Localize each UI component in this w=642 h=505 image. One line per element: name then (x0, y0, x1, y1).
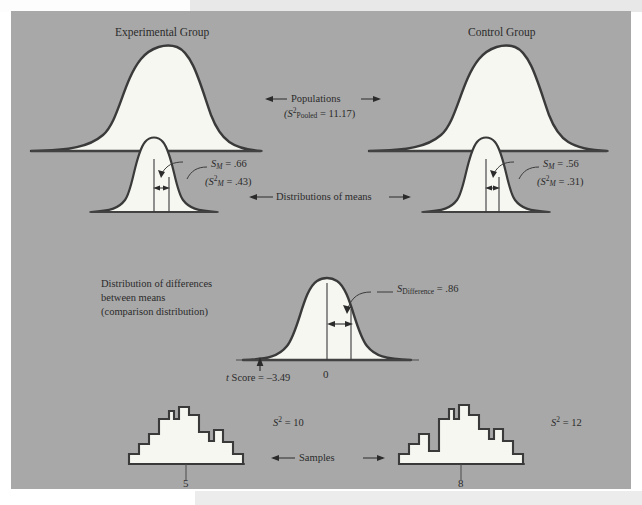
t-score-label: t Score = –3.49 (226, 371, 290, 384)
experimental-sm-leader (187, 167, 207, 179)
experimental-sample-variance-label: S2 = 10 (273, 415, 304, 429)
pooled-variance-label: (S2Pooled = 11.17) (284, 106, 355, 121)
comparison-distribution-caption: Distribution of differences between mean… (101, 277, 212, 319)
control-variance-label: (S2M = .31) (537, 174, 584, 189)
pooled-variance-value: = 11.17) (317, 108, 355, 119)
experimental-sm-label: SM = .66 (211, 157, 247, 171)
control-variance-value: = .31) (556, 176, 584, 187)
control-variance-open: (S (537, 176, 546, 187)
comparison-zero-label: 0 (323, 368, 329, 382)
bottom-white-band (0, 491, 195, 505)
experimental-variance-label: (S2M = .43) (205, 174, 252, 189)
pooled-variance-subscript: Pooled (297, 111, 318, 120)
experimental-population-curve (31, 46, 263, 152)
experimental-group-title: Experimental Group (115, 25, 209, 39)
experimental-sample-mean-label: 5 (183, 477, 189, 489)
control-sample-variance-label: S2 = 12 (551, 415, 582, 429)
control-sm-leader (519, 167, 539, 179)
s-difference-value: = .86 (434, 283, 458, 294)
pooled-variance-open: (S (284, 108, 293, 119)
control-population-curve (369, 46, 609, 152)
s-difference-label: SDifference = .86 (397, 282, 458, 296)
control-sample-variance-value: = 12 (560, 417, 582, 428)
t-score-value: Score = –3.49 (229, 372, 290, 383)
populations-arrow-label: Populations (291, 92, 341, 105)
control-sample-mean-label: 8 (458, 477, 464, 489)
figure-root: Experimental Group Control Group Populat… (0, 0, 642, 505)
experimental-sm-value: = .66 (223, 158, 247, 169)
samples-arrow-label: Samples (299, 451, 335, 464)
control-sm-label: SM = .56 (543, 157, 579, 171)
experimental-sample-histogram (129, 407, 245, 480)
control-sample-histogram (399, 405, 525, 480)
diagram-panel: Experimental Group Control Group Populat… (11, 11, 631, 489)
experimental-variance-open: (S (205, 176, 214, 187)
experimental-variance-value: = .43) (224, 176, 252, 187)
s-difference-subscript: Difference (402, 287, 434, 296)
control-sm-value: = .56 (555, 158, 579, 169)
experimental-sample-variance-value: = 10 (282, 417, 304, 428)
diagram-canvas (11, 11, 631, 489)
control-group-title: Control Group (468, 25, 535, 39)
distributions-of-means-arrow-label: Distributions of means (276, 190, 372, 203)
